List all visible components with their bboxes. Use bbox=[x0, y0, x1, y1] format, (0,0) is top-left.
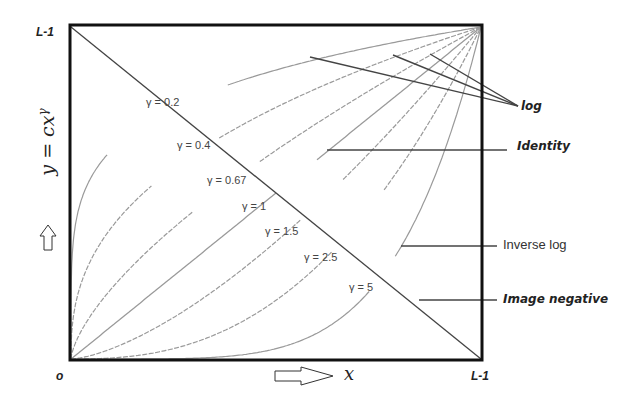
y-axis-label: y = cxγ bbox=[36, 102, 60, 182]
x-origin-label: o bbox=[56, 369, 63, 383]
log-pointer-3 bbox=[430, 54, 518, 106]
gamma-label-2-5: γ = 2.5 bbox=[304, 251, 337, 263]
chart-canvas bbox=[0, 0, 639, 404]
identity-label: Identity bbox=[517, 139, 570, 153]
y-axis-exponent: γ bbox=[36, 108, 50, 115]
gamma-label-1: γ = 1 bbox=[242, 200, 266, 212]
gamma-label-5: γ = 5 bbox=[349, 281, 373, 293]
x-max-label: L-1 bbox=[471, 369, 489, 383]
log-label: log bbox=[521, 99, 542, 113]
inverse-log-label: Inverse log bbox=[503, 237, 567, 252]
gamma-label-0-2: γ = 0.2 bbox=[146, 96, 179, 108]
gamma-label-0-4: γ = 0.4 bbox=[177, 139, 210, 151]
image-negative-label: Image negative bbox=[503, 292, 608, 306]
y-max-label: L-1 bbox=[36, 25, 54, 39]
y-axis-formula: y = cx bbox=[36, 116, 58, 176]
annotation-pointers bbox=[310, 54, 518, 300]
x-axis-label: x bbox=[344, 363, 354, 384]
gamma-label-0-67: γ = 0.67 bbox=[207, 174, 246, 186]
right-arrow-icon bbox=[275, 367, 333, 385]
gamma-label-1-5: γ = 1.5 bbox=[265, 225, 298, 237]
up-arrow-icon bbox=[40, 225, 56, 250]
